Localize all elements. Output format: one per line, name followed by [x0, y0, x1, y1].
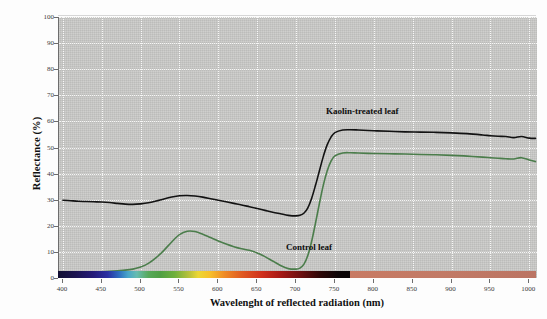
x-tick-label: 500 [120, 285, 160, 293]
x-tick-mark [256, 279, 257, 283]
y-tick-label: 20 [28, 223, 54, 230]
y-tick-label: 100 [28, 14, 54, 21]
series-label-control-leaf: Control leaf [286, 242, 332, 252]
y-tick-mark [54, 174, 58, 175]
y-tick-label: 60 [28, 118, 54, 125]
x-tick-mark [217, 279, 218, 283]
x-tick-label: 450 [81, 285, 121, 293]
x-tick-label: 650 [236, 285, 276, 293]
x-tick-label: 1000 [508, 285, 547, 293]
x-tick-mark [412, 279, 413, 283]
y-tick-mark [54, 200, 58, 201]
plot-area [58, 17, 537, 278]
y-tick-mark [54, 95, 58, 96]
y-tick-mark [54, 43, 58, 44]
y-tick-label: 0 [28, 275, 54, 282]
x-tick-mark [140, 279, 141, 283]
x-tick-label: 550 [158, 285, 198, 293]
series-label-kaolin-treated-leaf: Kaolin-treated leaf [326, 106, 399, 116]
x-tick-label: 800 [353, 285, 393, 293]
x-tick-mark [101, 279, 102, 283]
x-tick-label: 750 [314, 285, 354, 293]
x-tick-label: 600 [197, 285, 237, 293]
visible-spectrum-segment [58, 271, 350, 278]
near-infrared-segment [350, 271, 536, 278]
y-tick-mark [54, 226, 58, 227]
x-tick-mark [178, 279, 179, 283]
y-tick-mark [54, 69, 58, 70]
x-tick-label: 700 [275, 285, 315, 293]
x-tick-label: 850 [392, 285, 432, 293]
y-tick-mark [54, 148, 58, 149]
x-tick-label: 950 [469, 285, 509, 293]
x-tick-mark [451, 279, 452, 283]
x-tick-mark [62, 279, 63, 283]
y-tick-label: 80 [28, 66, 54, 73]
series-line-kaolin-treated-leaf [63, 130, 536, 216]
y-tick-label: 10 [28, 249, 54, 256]
series-lines [59, 17, 537, 278]
x-tick-mark [528, 279, 529, 283]
visible-to-nir-color-bar [58, 271, 536, 278]
x-axis-title: Wavelenght of reflected radiation (nm) [58, 297, 536, 308]
y-tick-mark [54, 17, 58, 18]
y-tick-label: 90 [28, 40, 54, 47]
x-tick-mark [334, 279, 335, 283]
y-tick-label: 30 [28, 197, 54, 204]
y-tick-label: 40 [28, 171, 54, 178]
plot-top-border [58, 15, 536, 16]
y-tick-label: 70 [28, 92, 54, 99]
x-tick-label: 900 [431, 285, 471, 293]
x-tick-mark [489, 279, 490, 283]
series-line-control-leaf [63, 153, 536, 275]
y-tick-mark [54, 121, 58, 122]
x-tick-mark [373, 279, 374, 283]
x-tick-label: 400 [42, 285, 82, 293]
y-tick-mark [54, 252, 58, 253]
chart-figure: Reflectance (%) 1009080706050403020100 4… [0, 0, 547, 319]
y-tick-label: 50 [28, 145, 54, 152]
x-tick-mark [295, 279, 296, 283]
y-tick-mark [54, 278, 58, 279]
